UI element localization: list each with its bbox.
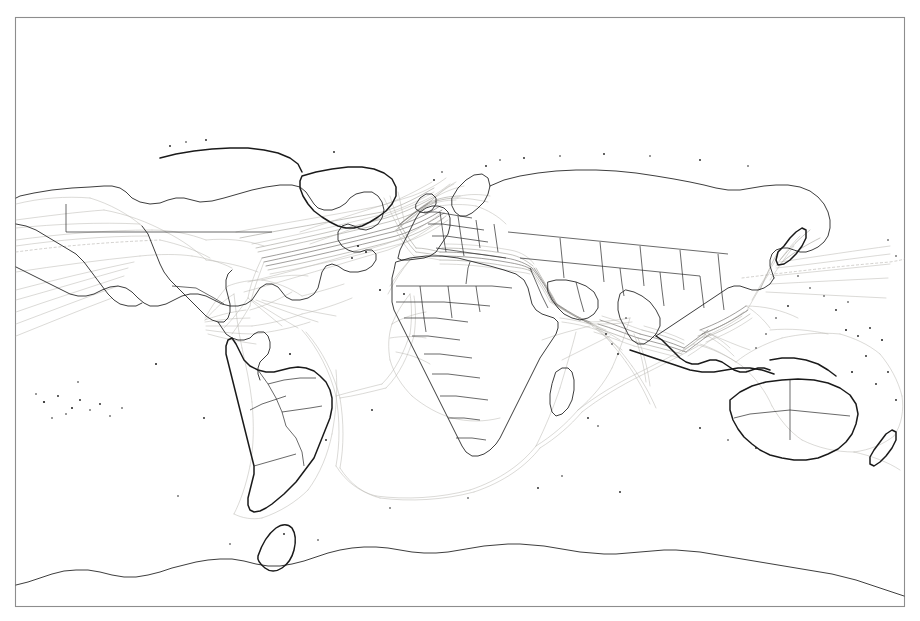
- route-west-africa: [389, 294, 500, 421]
- border-south-america-internal: [250, 370, 322, 466]
- coast-south-america: [226, 338, 332, 512]
- route-red-sea-suez: [528, 268, 632, 350]
- world-map-canvas: [0, 0, 920, 621]
- border-africa-internal: [396, 262, 512, 440]
- coast-new-zealand: [870, 430, 896, 466]
- coast-madagascar: [550, 368, 574, 416]
- route-northwest-europe: [384, 182, 490, 232]
- border-usa-canada: [66, 204, 272, 232]
- route-misc-crossings: [16, 197, 506, 272]
- route-eastern-north-america: [224, 258, 336, 334]
- coast-canadian-arctic: [160, 148, 302, 172]
- route-cape-of-good-hope: [536, 318, 698, 448]
- route-south-atlantic: [302, 294, 540, 500]
- route-australia: [694, 306, 903, 470]
- border-australia-internal: [734, 380, 850, 440]
- coast-southeast-asia: [656, 336, 770, 372]
- coast-antarctica: [16, 544, 904, 596]
- coast-east-asia: [656, 278, 774, 336]
- island-dots-layer: [35, 139, 897, 545]
- country-borders-layer: [66, 204, 850, 466]
- border-asia-internal: [508, 232, 728, 312]
- route-east-asia-pacific: [746, 230, 890, 312]
- coast-australia: [730, 379, 858, 460]
- coast-new-guinea: [770, 358, 836, 376]
- map-figure: [0, 0, 920, 621]
- landmass-layer: [16, 148, 904, 596]
- map-frame: [16, 18, 905, 607]
- route-north-atlantic: [236, 178, 450, 292]
- coast-north-america: [16, 185, 384, 306]
- route-caribbean-panama: [205, 275, 352, 344]
